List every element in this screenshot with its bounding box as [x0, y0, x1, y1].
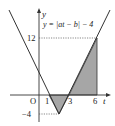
y-axis-label: y — [41, 9, 46, 19]
y-tick-minus4: −4 — [22, 109, 32, 119]
t-axis-arrow-icon — [106, 93, 111, 97]
x-tick-3: 3 — [68, 96, 72, 106]
x-tick-1: 1 — [45, 96, 49, 106]
y-axis-arrow-icon — [37, 8, 41, 13]
origin-label: O — [30, 96, 36, 106]
equation-label: y = |at − b| − 4 — [42, 20, 93, 29]
shaded-region-left — [49, 95, 69, 114]
graph: y y = |at − b| − 4 12 O 1 3 6 t −4 — [0, 0, 115, 126]
y-tick-12: 12 — [27, 33, 36, 43]
x-tick-6: 6 — [93, 96, 97, 106]
shaded-region-right — [69, 38, 97, 95]
t-axis-label: t — [103, 96, 106, 106]
